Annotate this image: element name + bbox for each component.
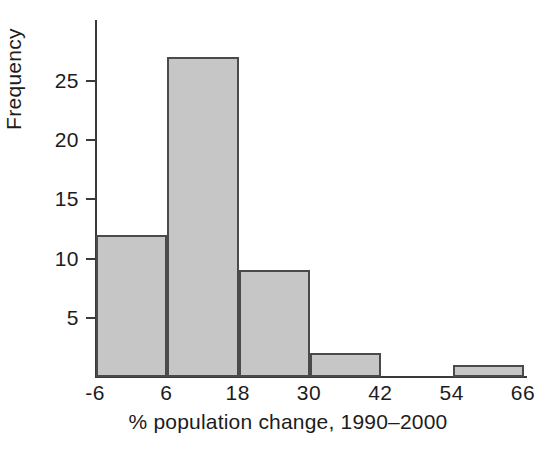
y-tick-label: 20 xyxy=(55,128,79,152)
x-axis-title-text: % population change, 1990–2000 xyxy=(103,410,448,433)
y-tick-10: 10 xyxy=(86,258,96,260)
x-axis-title: % population change, 1990–2000 xyxy=(0,410,550,434)
y-tick-15: 15 xyxy=(86,198,96,200)
x-tick-label--6: -6 xyxy=(85,381,105,405)
y-axis-title-wrapper: Frequency xyxy=(16,0,56,380)
x-tick-label-54: 54 xyxy=(439,381,463,405)
y-tick-20: 20 xyxy=(86,139,96,141)
y-tick-label: 10 xyxy=(55,247,79,271)
x-tick-label-66: 66 xyxy=(511,381,535,405)
histogram-bar xyxy=(167,57,238,377)
x-tick-label-30: 30 xyxy=(297,381,321,405)
histogram-bar xyxy=(453,365,524,377)
x-tick-label-18: 18 xyxy=(225,381,249,405)
histogram-figure: Frequency 510152025 -661830425466 % popu… xyxy=(0,0,550,454)
histogram-bar xyxy=(96,235,167,377)
histogram-bar xyxy=(310,353,381,377)
plot-area xyxy=(96,20,524,377)
y-tick-label: 5 xyxy=(67,306,79,330)
y-tick-5: 5 xyxy=(86,317,96,319)
histogram-bar xyxy=(239,270,310,377)
y-tick-label: 15 xyxy=(55,187,79,211)
x-tick-label-42: 42 xyxy=(368,381,392,405)
y-axis-title: Frequency xyxy=(2,28,26,130)
x-tick-label-6: 6 xyxy=(160,381,172,405)
y-tick-25: 25 xyxy=(86,80,96,82)
y-tick-label: 25 xyxy=(55,69,79,93)
